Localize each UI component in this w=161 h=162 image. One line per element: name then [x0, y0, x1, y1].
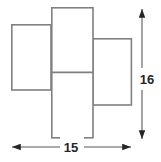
width-dimension-label: 15 — [64, 140, 78, 155]
left-rectangle — [12, 25, 51, 90]
geometry-figure: 16 15 — [0, 0, 161, 162]
height-dimension-label: 16 — [140, 72, 154, 87]
right-rectangle — [93, 39, 131, 105]
figure-canvas: 16 15 — [0, 0, 161, 162]
